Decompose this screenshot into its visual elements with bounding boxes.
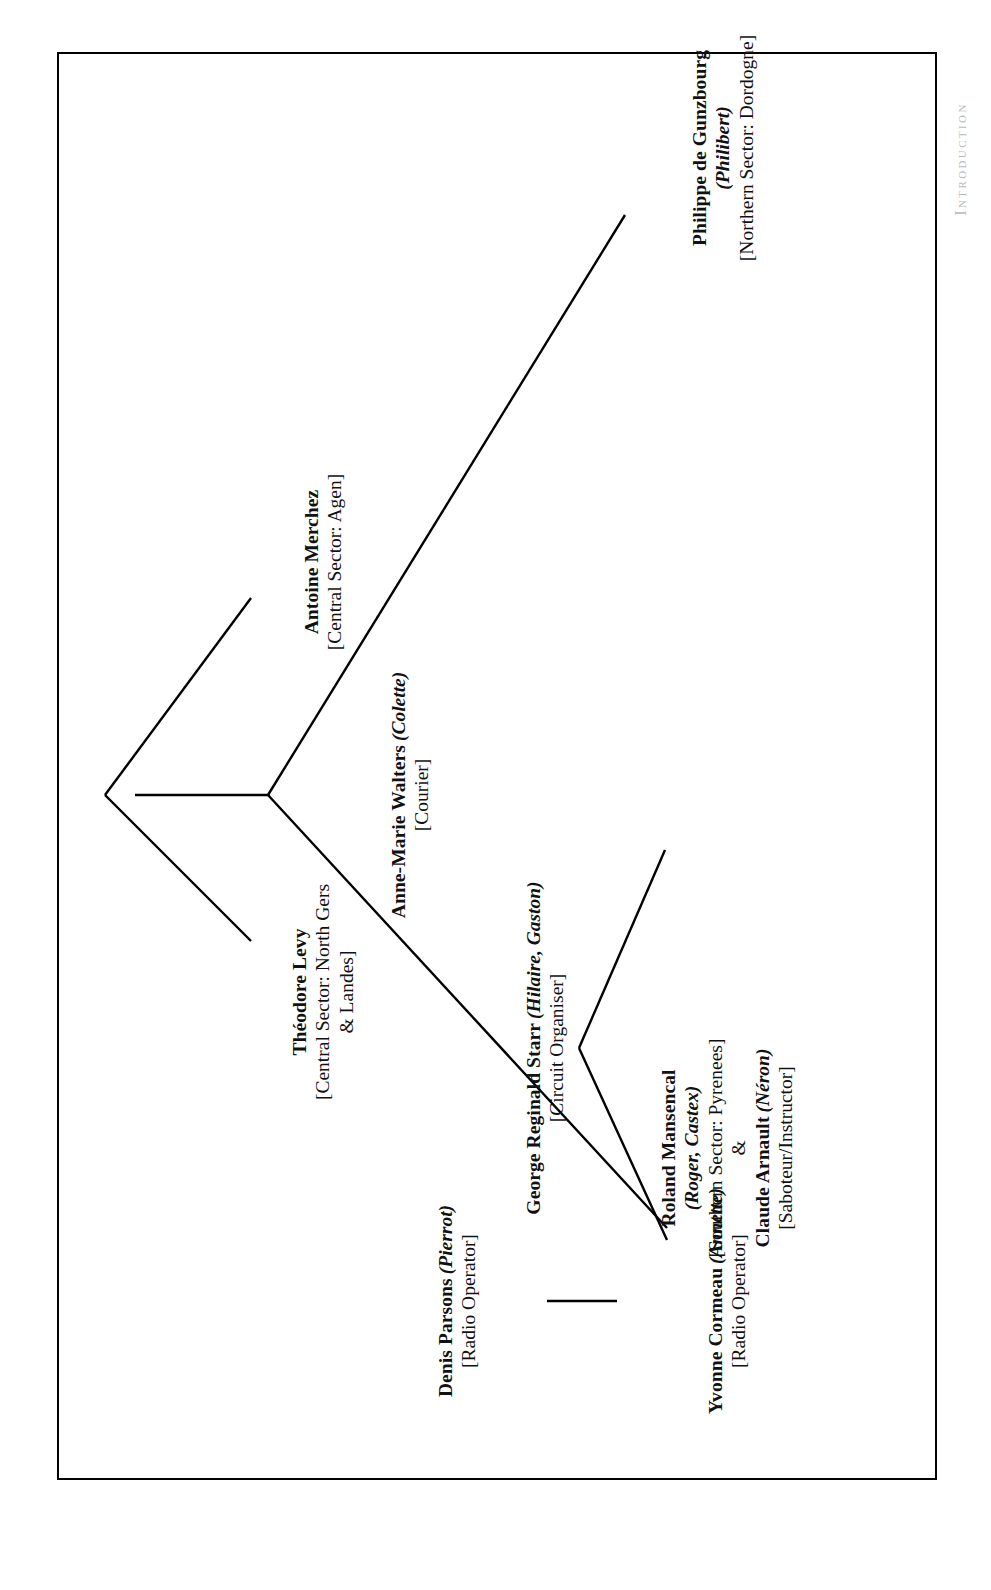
node-starr-role: [Circuit Organiser] [546, 974, 567, 1123]
node-walters-name: Anne-Marie Walters [388, 745, 409, 918]
node-arnault-alias: (Néron) [751, 1049, 772, 1113]
node-mansencal-name: Roland Mansencal [658, 1069, 679, 1226]
node-arnault-name: Claude Arnault [751, 1117, 772, 1248]
node-walters[interactable]: Anne-Marie Walters (Colette) [Courier] [387, 672, 434, 918]
node-levy[interactable]: Théodore Levy [Central Sector: North Ger… [288, 884, 358, 1100]
figure-frame: Wheelwright Circuit 1944–1945 [57, 52, 937, 1480]
node-starr[interactable]: George Reginald Starr (Hilaire, Gaston) … [522, 881, 569, 1214]
node-walters-alias: (Colette) [388, 672, 409, 741]
edge-layer [59, 54, 935, 1478]
node-parsons-role: [Radio Operator] [458, 1234, 479, 1368]
node-levy-role-line1: [Central Sector: North Gers [312, 884, 333, 1100]
node-merchez[interactable]: Antoine Merchez [Central Sector: Agen] [300, 474, 347, 651]
node-cormeau-name: Yvonne Cormeau [705, 1268, 726, 1414]
edge-branch-to-levy [105, 795, 251, 941]
node-ampersand: & [728, 1140, 749, 1155]
node-mansencal[interactable]: Roland Mansencal (Roger, Castex) [Southe… [657, 1039, 797, 1258]
node-merchez-name: Antoine Merchez [301, 490, 322, 635]
node-arnault-role: [Saboteur/Instructor] [775, 1066, 796, 1230]
node-parsons-name: Denis Parsons [435, 1278, 456, 1397]
node-starr-name: George Reginald Starr [523, 1023, 544, 1215]
node-starr-alias: (Hilaire, Gaston) [523, 881, 544, 1019]
node-mansencal-role: [Southern Sector: Pyrenees] [705, 1039, 726, 1258]
edge-starr-to-cormeau [579, 1048, 667, 1240]
edge-starr-to-walters [579, 850, 665, 1048]
node-walters-role: [Courier] [411, 759, 432, 832]
node-gunzbourg[interactable]: Philippe de Gunzbourg (Philibert) [North… [688, 35, 758, 261]
node-parsons[interactable]: Denis Parsons (Pierrot) [Radio Operator] [434, 1205, 481, 1397]
diagram-stage: Wheelwright Circuit 1944–1945 [59, 54, 935, 1478]
running-head: Introduction [931, 0, 991, 300]
node-parsons-alias: (Pierrot) [435, 1205, 456, 1274]
edge-branch-to-merchez [105, 598, 251, 795]
node-merchez-role: [Central Sector: Agen] [324, 474, 345, 651]
node-gunzbourg-role: [Northern Sector: Dordogne] [736, 35, 757, 261]
running-head-text: Introduction [952, 9, 970, 309]
node-levy-name: Théodore Levy [289, 928, 310, 1055]
node-mansencal-alias: (Roger, Castex) [681, 1086, 702, 1211]
node-gunzbourg-name: Philippe de Gunzbourg [689, 50, 710, 246]
node-levy-role-line2: & Landes] [336, 951, 357, 1034]
node-gunzbourg-alias: (Philibert) [712, 106, 733, 189]
